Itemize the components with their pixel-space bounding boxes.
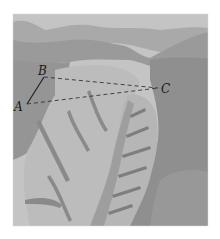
label-a: A [13,100,23,114]
label-b: B [37,64,47,78]
landscape [13,14,208,226]
label-c: C [161,82,170,96]
canyon-triangulation-figure: A B C [0,0,220,239]
